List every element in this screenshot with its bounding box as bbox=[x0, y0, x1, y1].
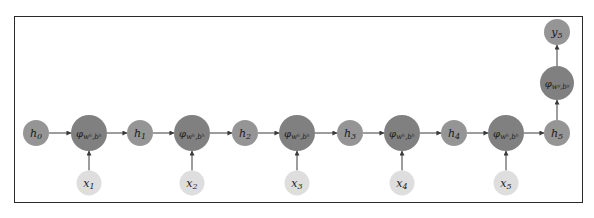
node-h0: h0 bbox=[23, 120, 49, 146]
node-phi4: φwʰ,bʰ bbox=[384, 115, 420, 151]
node-h4: h4 bbox=[441, 120, 467, 146]
node-phi3: φwʰ,bʰ bbox=[279, 115, 315, 151]
node-x2: x2 bbox=[180, 171, 205, 196]
node-phi1: φwʰ,bʰ bbox=[71, 115, 107, 151]
node-x3: x3 bbox=[285, 171, 310, 196]
node-h5: h5 bbox=[544, 120, 570, 146]
node-x4: x4 bbox=[390, 171, 415, 196]
node-x5: x5 bbox=[494, 171, 519, 196]
node-y5: y5 bbox=[544, 19, 570, 45]
node-h1: h1 bbox=[127, 120, 153, 146]
node-x1: x1 bbox=[77, 171, 102, 196]
node-phiy: φwʸ,bʸ bbox=[540, 66, 574, 100]
node-phi5: φwʰ,bʰ bbox=[488, 115, 524, 151]
node-h2: h2 bbox=[232, 120, 258, 146]
node-phi2: φwʰ,bʰ bbox=[174, 115, 210, 151]
node-h3: h3 bbox=[337, 120, 363, 146]
rnn-diagram: h0h1h2h3h4h5φwʰ,bʰφwʰ,bʰφwʰ,bʰφwʰ,bʰφwʰ,… bbox=[0, 0, 594, 218]
